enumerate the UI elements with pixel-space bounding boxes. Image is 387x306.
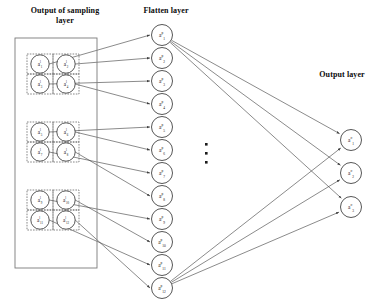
flatten-node: ap9	[152, 209, 173, 230]
flatten-node: ap6	[152, 140, 173, 161]
sampling-node: al8	[57, 143, 75, 161]
edge-flatten-output	[172, 212, 339, 284]
ellipsis-dot	[205, 152, 208, 155]
edge-flatten-output	[171, 148, 341, 281]
edge-sampling-flatten	[75, 58, 150, 64]
flatten-node: ap10	[152, 232, 173, 253]
flatten-node: ap3	[152, 71, 173, 92]
flatten-node: ap11	[152, 255, 173, 276]
flatten-node: ap1	[152, 25, 173, 46]
ellipsis-dot	[205, 161, 208, 164]
flatten-node: ap2	[152, 48, 173, 69]
edge-sampling-flatten	[75, 132, 150, 150]
sampling-block-1: al1al2al3al4	[27, 54, 79, 94]
edge-flatten-output	[171, 41, 341, 165]
sampling-node: al10	[57, 191, 75, 209]
diagram-canvas: al1al2al3al4al5al6al7al8al9al10al11al12 …	[0, 0, 387, 306]
flatten-node: ap8	[152, 186, 173, 207]
sampling-block-2: al5al6al7al8	[27, 122, 79, 162]
output-layer-group: ao1ao2ao3	[341, 130, 362, 218]
sampling-node: al7	[31, 143, 49, 161]
sampling-layer-label: Output of sampling layer	[10, 6, 120, 26]
edge-sampling-flatten	[75, 220, 150, 288]
edge-sampling-flatten	[75, 84, 150, 104]
sampling-block-3: al9al10al11al12	[27, 190, 79, 230]
edge-sampling-flatten	[75, 152, 150, 196]
sampling-layer-group: al1al2al3al4al5al6al7al8al9al10al11al12	[15, 38, 97, 268]
edge-flatten-output	[172, 40, 340, 133]
flatten-layer-group: ap1ap2ap3ap4ap5ap6ap7ap8ap9ap10ap11ap12	[152, 25, 173, 299]
diagram-graphics: al1al2al3al4al5al6al7al8al9al10al11al12 …	[0, 0, 387, 306]
edge-flatten-output	[171, 180, 339, 283]
sampling-node: al6	[57, 123, 75, 141]
sampling-node: al4	[57, 75, 75, 93]
edge-sampling-flatten	[75, 200, 150, 242]
sampling-node: al1	[31, 55, 49, 73]
flatten-node: ap4	[152, 94, 173, 115]
sampling-node: al3	[31, 75, 49, 93]
sampling-node: al12	[57, 211, 75, 229]
output-node: ao1	[341, 130, 362, 151]
ellipsis-group	[205, 143, 208, 164]
flatten-node: ap7	[152, 163, 173, 184]
sampling-node: al11	[31, 211, 49, 229]
flatten-layer-label: Flatten layer	[128, 6, 204, 16]
output-node: ao2	[341, 163, 362, 184]
sampling-node: al5	[31, 123, 49, 141]
ellipsis-dot	[205, 143, 208, 146]
flatten-node: ap12	[152, 278, 173, 299]
sampling-node: al9	[31, 191, 49, 209]
output-layer-label: Output layer	[302, 70, 382, 80]
flatten-node: ap5	[152, 117, 173, 138]
output-node: ao3	[341, 197, 362, 218]
sampling-node: al2	[57, 55, 75, 73]
